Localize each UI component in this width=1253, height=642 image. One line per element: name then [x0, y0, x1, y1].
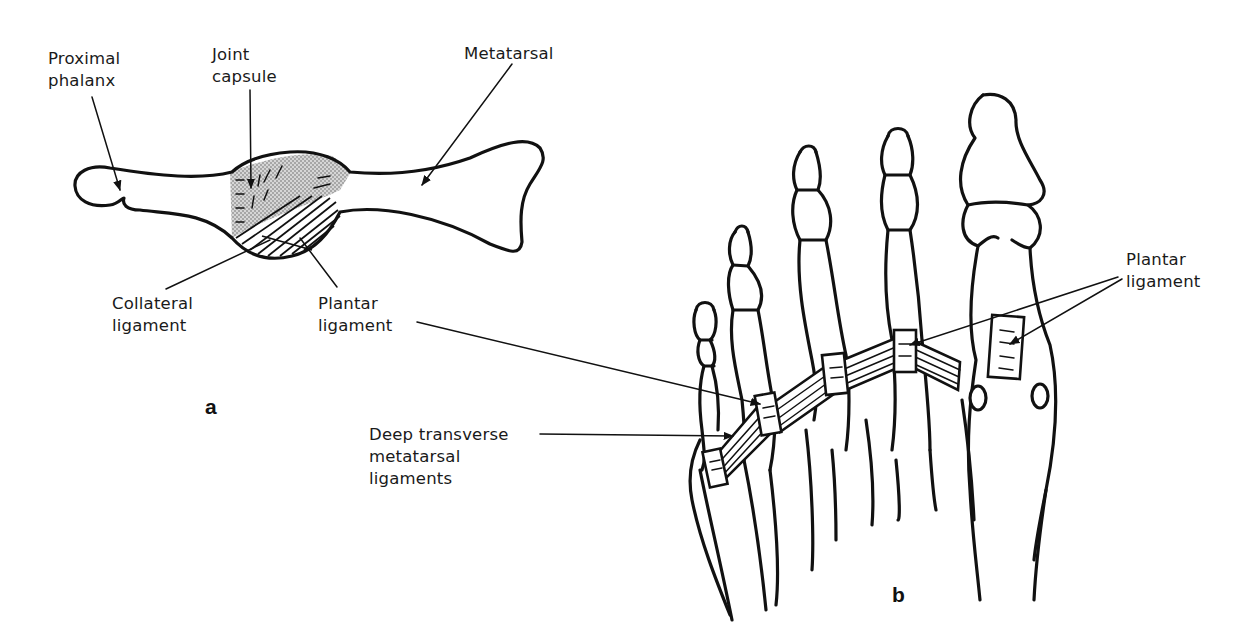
label-collateral-ligament: Collateral ligament	[112, 293, 193, 337]
toe-2	[882, 129, 930, 451]
leader-collateral-ligament	[166, 240, 270, 289]
panel-a-joint	[75, 64, 543, 289]
leader-joint-capsule	[250, 90, 251, 188]
panel-letter-b: b	[892, 583, 905, 607]
label-joint-capsule: Joint capsule	[212, 44, 277, 88]
label-metatarsal: Metatarsal	[464, 43, 554, 65]
label-plantar-ligament-a: Plantar ligament	[318, 293, 393, 337]
panel-letter-a: a	[205, 395, 217, 419]
label-deep-transverse-metatarsal-ligaments: Deep transverse metatarsal ligaments	[369, 424, 509, 490]
panel-b-forefoot	[417, 94, 1122, 620]
label-plantar-ligament-b: Plantar ligament	[1126, 249, 1201, 293]
label-proximal-phalanx: Proximal phalanx	[48, 48, 120, 92]
sesamoids	[970, 384, 1048, 410]
leader-plantar-ligament-b-2	[1010, 279, 1122, 344]
anatomy-figure: Proximal phalanx Joint capsule Metatarsa…	[0, 0, 1253, 642]
leader-plantar-ligament-a-to-b	[417, 322, 760, 404]
leader-plantar-ligament-a	[300, 238, 337, 287]
leader-proximal-phalanx	[92, 97, 120, 190]
leader-metatarsal	[422, 64, 512, 185]
